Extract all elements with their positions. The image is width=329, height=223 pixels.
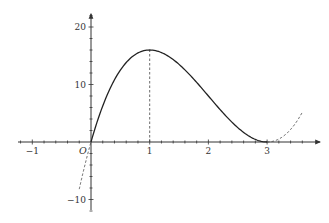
- axes: [18, 14, 320, 210]
- origin-label: O: [79, 145, 87, 156]
- x-tick-label: −1: [26, 146, 39, 156]
- x-tick-label: 2: [206, 146, 212, 156]
- y-tick-label: −10: [67, 195, 86, 205]
- y-tick-label: 20: [75, 22, 87, 32]
- function-plot: −11232010−10O: [0, 0, 329, 223]
- y-tick-label: 10: [75, 80, 87, 90]
- curves: [79, 50, 302, 189]
- curve-solid: [91, 50, 267, 142]
- curve-dashed: [267, 112, 302, 142]
- x-tick-label: 1: [147, 146, 153, 156]
- x-tick-label: 3: [264, 146, 270, 156]
- axis-ticks: [21, 16, 303, 212]
- tick-labels: −11232010−10O: [26, 22, 271, 205]
